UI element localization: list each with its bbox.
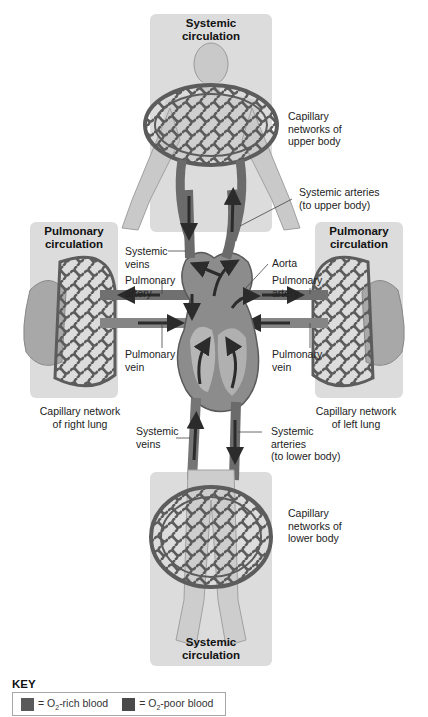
systemic-top-title: Systemic circulation xyxy=(150,17,272,43)
pulmonary-right-title: Pulmonary circulation xyxy=(315,225,403,251)
label-systemic-veins-upper: Systemicveins xyxy=(125,245,168,270)
pulmonary-left-title: Pulmonary circulation xyxy=(30,225,118,251)
label-systemic-arteries-lower: Systemicarteries(to lower body) xyxy=(271,425,340,463)
label-pulmonary-vein-left: Pulmonaryvein xyxy=(125,348,175,373)
lower-capillary-network xyxy=(151,487,271,587)
key-box: = O2-rich blood = O2-poor blood xyxy=(12,692,226,716)
o2-poor-swatch-icon xyxy=(122,698,135,711)
label-systemic-veins-lower: Systemicveins xyxy=(136,425,179,450)
o2-rich-swatch-icon xyxy=(21,698,34,711)
label-systemic-arteries-upper: Systemic arteries(to upper body) xyxy=(299,186,380,211)
key-item-o2-poor: = O2-poor blood xyxy=(122,697,213,711)
label-capillary-upper-body: Capillarynetworks ofupper body xyxy=(288,110,342,148)
label-aorta: Aorta xyxy=(272,257,297,270)
key-title: KEY xyxy=(12,678,226,690)
label-pulmonary-artery-right: Pulmonaryartery xyxy=(272,274,322,299)
label-capillary-lower-body: Capillarynetworks oflower body xyxy=(288,507,342,545)
circulation-diagram xyxy=(0,0,428,717)
label-pulmonary-vein-right: Pulmonaryvein xyxy=(272,348,322,373)
key-item-o2-rich: = O2-rich blood xyxy=(21,697,108,711)
systemic-bottom-title: Systemic circulation xyxy=(150,636,272,662)
label-pulmonary-artery-left: Pulmonaryartery xyxy=(125,274,175,299)
label-capillary-right-lung: Capillary networkof right lung xyxy=(30,405,130,430)
key-legend: KEY = O2-rich blood = O2-poor blood xyxy=(12,678,226,716)
heart xyxy=(177,252,258,411)
